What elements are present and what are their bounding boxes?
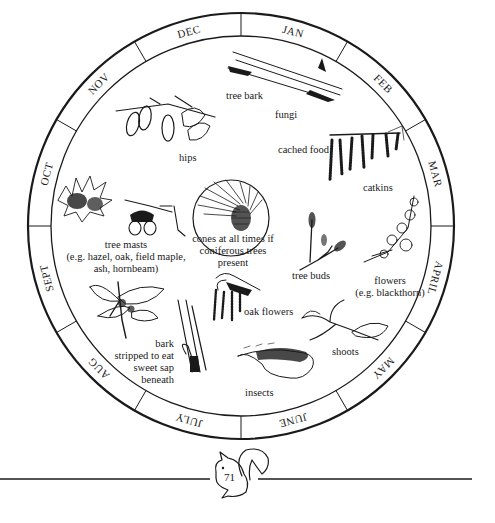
label-tree-masts-examples: (e.g. hazel, oak, field maple, [62,251,190,263]
label-tree-masts-title: tree masts [62,239,190,251]
stripped-bark-icon [178,300,206,372]
month-divider [336,42,348,62]
label-tree-masts-examples-cont: ash, hornbeam) [62,263,190,275]
month-divider [135,42,147,62]
month-divider [406,321,426,333]
tree-buds-icon [300,212,348,270]
label-cones: cones at all times if coniferous trees p… [190,233,276,269]
label-cones-line2: coniferous trees [190,245,276,257]
label-catkins: catkins [363,182,393,194]
label-hips: hips [179,152,197,164]
label-bark-line4: beneath [108,374,174,386]
label-flowers: flowers (e.g. blackthorn) [348,275,432,299]
acorns-icon [125,200,185,236]
month-divider [135,391,147,411]
label-flowers-title: flowers [348,275,432,287]
label-flowers-example: (e.g. blackthorn) [348,287,432,299]
month-divider [57,120,77,132]
label-shoots: shoots [332,346,359,358]
label-tree-bark: tree bark [226,90,263,102]
page-number: 71 [224,471,235,483]
label-bark-stripped: bark stripped to eat sweet sap beneath [108,338,174,386]
hazelnut-icon [58,176,112,222]
month-label-jan: JAN [281,23,305,40]
label-cones-line1: cones at all times if [190,233,276,245]
label-bark-line3: sweet sap [108,362,174,374]
sycamore-seeds-icon [90,282,164,338]
month-divider [57,321,77,333]
month-label-mar: MAR [426,159,445,188]
label-fungi: fungi [275,109,297,121]
rose-hips-icon [116,96,215,141]
label-insects: insects [245,387,274,399]
month-label-nov: NOV [85,70,111,96]
caterpillar-insect-icon [238,343,313,378]
label-oak-flowers: oak flowers [244,306,293,318]
blackthorn-flowers-icon [364,196,418,262]
food-calendar-page: JANFEBMARAPRILMAYJUNEJULYAUGSEPTOCTNOVDE… [0,0,495,523]
month-label-sept: SEPT [37,263,56,293]
month-label-oct: OCT [38,161,56,187]
month-label-june: JUNE [278,411,309,430]
label-bark-line2: stripped to eat [108,350,174,362]
month-label-dec: DEC [176,23,202,41]
month-label-may: MAY [370,355,397,382]
label-tree-masts: tree masts (e.g. hazel, oak, field maple… [62,239,190,275]
month-divider [406,120,426,132]
label-tree-buds: tree buds [292,270,330,282]
month-divider [336,391,348,411]
label-cached-food: cached food [278,144,329,156]
month-label-july: JULY [174,411,204,430]
label-cones-line3: present [190,257,276,269]
label-bark-line1: bark [108,338,174,350]
leafy-shoots-icon [302,300,388,340]
catkins-icon [330,126,404,180]
